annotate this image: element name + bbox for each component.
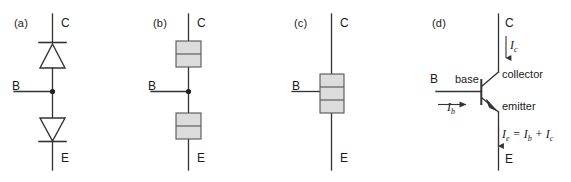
emitter-arrowhead-d [487,100,497,111]
panel-d-schematic [430,0,571,182]
panel-b-lower-block [176,113,201,139]
panel-c-npn-block [320,74,344,113]
upper-diode-triangle-a [40,44,65,68]
panel-a-schematic [0,0,145,182]
transistor-figure: (a) C B E [0,0,571,182]
lower-diode-triangle-a [40,118,65,141]
panel-c: (c) C B E n p n [290,0,430,182]
base-junction-dot-a [50,89,55,94]
panel-c-schematic [290,0,430,182]
panel-b-schematic [145,0,290,182]
panel-a: (a) C B E [0,0,145,182]
panel-d: (d) C B E base collector emitter Ic Ib I… [430,0,571,182]
base-junction-dot-b [186,89,191,94]
panel-b-upper-block [176,41,201,67]
panel-b: (b) C B E n p p n [145,0,290,182]
collector-slant-d [482,72,499,86]
